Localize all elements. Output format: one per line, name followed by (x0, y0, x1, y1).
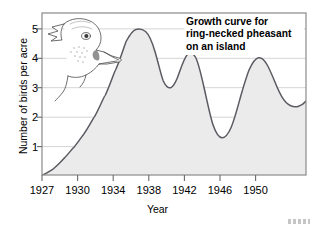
chart-title-line-3: on an island (186, 41, 303, 53)
chart-title-line-1: Growth curve for (186, 16, 303, 28)
chart-title: Growth curve for ring-necked pheasant on… (184, 14, 304, 55)
chart-figure: Number of birds per acre 1 2 3 4 5 1927 … (0, 0, 315, 230)
x-axis-label: Year (0, 203, 315, 215)
scan-artifact (288, 219, 310, 224)
chart-title-line-2: ring-necked pheasant (186, 28, 303, 40)
x-tick-label-1950: 1950 (234, 185, 278, 196)
